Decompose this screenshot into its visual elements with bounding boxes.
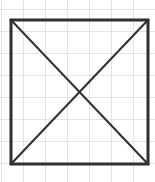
figure-canvas: [0, 0, 155, 182]
shape-group: [11, 20, 148, 164]
diagram-shape-layer: [0, 0, 155, 182]
